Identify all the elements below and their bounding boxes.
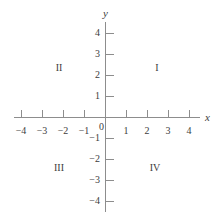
y-tick-pos3 [106,54,114,55]
x-tick-neg4 [21,110,22,118]
quadrant-label-ii: II [46,63,72,73]
quadrant-label-iv: IV [142,163,168,173]
coordinate-plane-figure: −4 −3 −2 −1 1 2 3 4 4 3 2 1 −1 −2 −3 −4 … [0,0,220,220]
origin-label: 0 [90,122,104,132]
x-tick-pos3 [168,110,169,118]
x-tick-label-neg3: −3 [32,126,52,136]
y-tick-label-neg4: −4 [84,196,100,206]
y-tick-neg2 [106,159,114,160]
x-tick-label-pos3: 3 [158,126,178,136]
y-tick-pos4 [106,33,114,34]
x-tick-pos2 [147,110,148,118]
y-tick-neg4 [106,201,114,202]
y-tick-label-pos2: 2 [84,70,100,80]
quadrant-label-iii: III [46,163,72,173]
y-tick-label-neg2: −2 [84,154,100,164]
y-tick-pos2 [106,75,114,76]
y-tick-label-pos4: 4 [84,28,100,38]
y-tick-pos1 [106,96,114,97]
y-tick-label-neg3: −3 [84,175,100,185]
x-tick-neg2 [63,110,64,118]
y-tick-neg3 [106,180,114,181]
x-tick-pos4 [189,110,190,118]
x-tick-label-neg4: −4 [11,126,31,136]
quadrant-label-i: I [144,63,170,73]
y-tick-label-pos3: 3 [84,49,100,59]
y-tick-label-neg1: −1 [84,133,100,143]
x-tick-label-neg2: −2 [53,126,73,136]
y-tick-neg1 [106,138,114,139]
x-axis-label: x [205,112,210,123]
y-tick-label-pos1: 1 [84,91,100,101]
x-tick-neg1 [84,110,85,118]
x-tick-label-pos4: 4 [179,126,199,136]
x-tick-pos1 [126,110,127,118]
y-axis-line [105,22,106,212]
x-tick-neg3 [42,110,43,118]
x-tick-label-pos1: 1 [116,126,136,136]
y-axis-label: y [103,8,108,19]
x-tick-label-pos2: 2 [137,126,157,136]
